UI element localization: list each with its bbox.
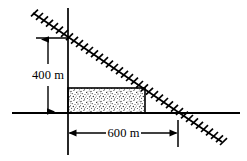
slope-diagram-figure: 400 m 600 m <box>0 0 247 161</box>
width-dimension: 600 m <box>70 120 179 147</box>
height-dimension-label: 400 m <box>32 68 64 82</box>
height-dimension: 400 m <box>32 38 68 112</box>
width-dimension-label: 600 m <box>107 126 139 140</box>
diagram-canvas: 400 m 600 m <box>0 0 247 161</box>
soil-block <box>68 88 145 113</box>
soil-block-rect <box>68 88 145 113</box>
